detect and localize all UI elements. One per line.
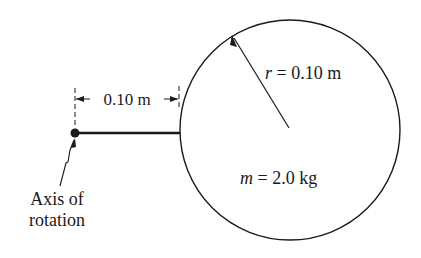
physics-diagram: 0.10 m r = 0.10 m m = 2.0 kg Axis of rot… <box>0 0 421 258</box>
axis-label-line1: Axis of <box>30 189 84 209</box>
axis-pivot-dot <box>71 129 80 138</box>
radius-label: r = 0.10 m <box>265 63 341 83</box>
disk <box>180 20 400 240</box>
axis-label-line2: rotation <box>29 210 85 230</box>
dimension-arrow-left <box>76 96 90 102</box>
dimension-arrow-right <box>164 96 178 102</box>
dimension-label: 0.10 m <box>103 90 150 109</box>
axis-pointer-arrow <box>60 138 76 186</box>
mass-label: m = 2.0 kg <box>240 168 317 188</box>
